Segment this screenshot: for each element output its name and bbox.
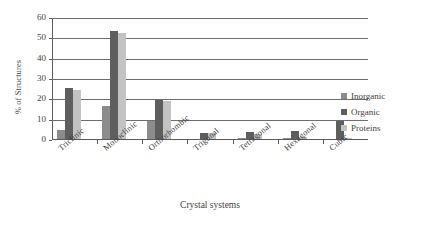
legend-label: Proteins [351, 123, 381, 133]
y-tick-label: 20 [20, 94, 46, 103]
x-axis-title: Crystal systems [52, 200, 368, 210]
x-tick-mark [233, 140, 234, 144]
x-tick-mark [97, 140, 98, 144]
bar-group [278, 18, 323, 139]
x-tick-mark [187, 140, 188, 144]
legend-label: Inorganic [351, 91, 385, 101]
bar-group [233, 18, 278, 139]
bar-chart: % of Structures 0102030405060 TriclinicM… [0, 0, 422, 231]
legend-swatch-icon [341, 109, 347, 115]
bar-group [187, 18, 232, 139]
legend-item[interactable]: Proteins [341, 120, 385, 136]
bar [147, 121, 155, 139]
plot-area: 0102030405060 TriclinicMonoclinicOrthorh… [52, 18, 368, 140]
y-tick-label: 60 [20, 13, 46, 22]
y-tick-label: 10 [20, 115, 46, 124]
legend-swatch-icon [341, 125, 347, 131]
legend-swatch-icon [341, 93, 347, 99]
y-tick-label: 40 [20, 54, 46, 63]
legend-item[interactable]: Inorganic [341, 88, 385, 104]
x-tick-mark [278, 140, 279, 144]
y-tick-mark [49, 140, 52, 141]
legend: InorganicOrganicProteins [341, 88, 385, 136]
legend-label: Organic [351, 107, 380, 117]
bar-group [97, 18, 142, 139]
y-tick-label: 50 [20, 33, 46, 42]
bar-group [52, 18, 97, 139]
bar [102, 106, 110, 139]
legend-item[interactable]: Organic [341, 104, 385, 120]
bar [110, 31, 118, 139]
x-tick-mark [323, 140, 324, 144]
y-tick-label: 30 [20, 74, 46, 83]
y-tick-label: 0 [20, 135, 46, 144]
x-tick-mark [142, 140, 143, 144]
